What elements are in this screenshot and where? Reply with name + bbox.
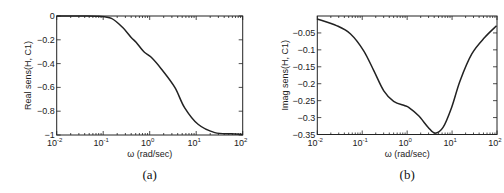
x-tick-label: 101 (443, 137, 457, 148)
x-tick-label: 100 (141, 137, 155, 148)
data-curve (317, 19, 496, 133)
figure-caption: (b) (400, 167, 415, 182)
x-tick-label: 102 (234, 137, 248, 148)
y-tick-label: −0.05 (293, 28, 316, 38)
y-tick-label: −0.25 (293, 96, 316, 106)
y-tick-label: −1 (44, 130, 54, 140)
y-tick-label: −0.4 (37, 59, 55, 69)
x-tick-label: 100 (398, 137, 412, 148)
x-tick-label: 10-1 (94, 137, 110, 148)
x-axis-label: ω (rad/sec) (385, 149, 430, 159)
figure-caption: (a) (142, 167, 156, 182)
plot-frame (317, 16, 497, 135)
data-curve (57, 16, 243, 134)
chart-b-imag-sensitivity: 10-210-1100101102−0.05−0.1−0.15−0.2−0.25… (280, 16, 502, 182)
y-tick-label: −0.35 (293, 130, 316, 140)
x-tick-label: 101 (188, 137, 202, 148)
plot-frame (57, 16, 243, 135)
x-axis-label: ω (rad/sec) (127, 149, 172, 159)
y-axis-label: Imag sens(H, C1) (280, 40, 290, 111)
y-tick-label: −0.1 (298, 45, 316, 55)
y-axis-label: Real sens(H, C1) (23, 41, 33, 110)
y-tick-label: −0.2 (298, 79, 316, 89)
y-tick-label: 0 (50, 11, 55, 21)
y-tick-label: −0.2 (37, 35, 55, 45)
y-tick-label: −0.15 (293, 62, 316, 72)
figure: 10-210-11001011020−0.2−0.4−0.6−0.8−1ω (r… (0, 0, 504, 193)
y-tick-label: −0.8 (37, 106, 55, 116)
y-tick-label: −0.3 (298, 113, 316, 123)
x-tick-label: 102 (488, 137, 502, 148)
chart-a-real-sensitivity: 10-210-11001011020−0.2−0.4−0.6−0.8−1ω (r… (23, 11, 248, 182)
y-tick-label: −0.6 (37, 82, 55, 92)
x-tick-label: 10-1 (353, 137, 369, 148)
